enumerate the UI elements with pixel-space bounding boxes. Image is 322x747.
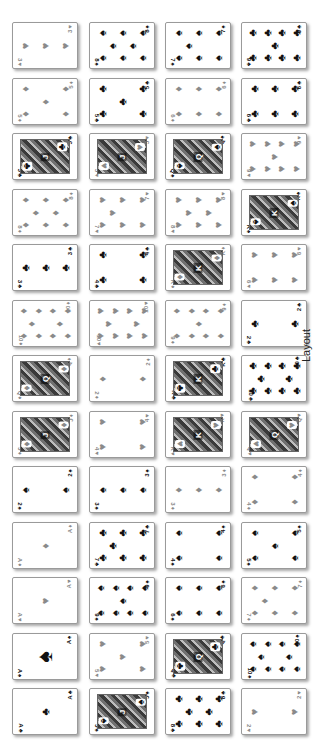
- card-q-of-clubs[interactable]: Q♣Q♣♣♣Q: [165, 633, 231, 680]
- spade-icon: ♠: [246, 230, 252, 233]
- club-icon: ♣: [248, 108, 259, 119]
- card-6-of-spades[interactable]: 6♠6♠♠♠♠♠♠♠: [165, 577, 231, 624]
- club-icon: ♣: [137, 528, 148, 539]
- card-5-of-hearts[interactable]: 5♥5♥♥♥♥♥♥: [89, 633, 155, 680]
- card-9-of-clubs[interactable]: 9♣9♣♣♣♣♣♣♣♣♣♣: [241, 22, 307, 69]
- spade-icon: ♠: [135, 698, 145, 705]
- heart-icon: ♥: [137, 417, 148, 428]
- card-a-of-clubs[interactable]: A♣A♣♣: [12, 688, 78, 735]
- card-a-of-hearts[interactable]: A♥A♥♥: [12, 577, 78, 624]
- card-q-of-diamonds[interactable]: Q♦Q♦♦♦Q: [12, 355, 78, 402]
- spade-icon: ♠: [109, 607, 120, 618]
- card-4-of-spades[interactable]: 4♠4♠♠♠♠♠: [165, 522, 231, 569]
- card-5-of-clubs[interactable]: 5♣5♣♣♣♣♣♣: [89, 78, 155, 125]
- club-icon: ♣: [248, 84, 259, 95]
- card-3-of-diamonds[interactable]: 3♦3♦♦♦♦: [165, 466, 231, 513]
- card-7-of-diamonds[interactable]: 7♦7♦♦♦♦♦♦♦♦: [241, 577, 307, 624]
- heart-icon: ♥: [96, 441, 107, 452]
- diamond-icon: ♦: [170, 285, 176, 288]
- card-10-of-clubs[interactable]: 10♣10♣♣♣♣♣♣♣♣♣♣♣: [241, 355, 307, 402]
- card-4-of-clubs[interactable]: 4♣4♣♣♣♣♣: [89, 244, 155, 291]
- club-icon: ♣: [172, 718, 183, 729]
- card-a-of-spades[interactable]: A♠A♠♠: [12, 633, 78, 680]
- card-9-of-diamonds[interactable]: 9♦9♦♦♦♦♦♦♦♦♦♦: [165, 300, 231, 347]
- card-3-of-hearts[interactable]: 3♥3♥♥♥♥: [12, 22, 78, 69]
- card-pips: ♦♦♦♦♦♦♦♦♦♦: [21, 308, 69, 339]
- court-card-artwork: ♣♣Q: [173, 639, 223, 674]
- diamond-icon: ♦: [47, 306, 58, 317]
- court-rank-label: J: [118, 152, 127, 160]
- spade-icon: ♠: [137, 28, 148, 39]
- card-j-of-hearts[interactable]: J♥J♥♥♥J: [89, 133, 155, 180]
- card-9-of-hearts[interactable]: 9♥9♥♥♥♥♥♥♥♥♥♥: [241, 133, 307, 180]
- heart-icon: ♥: [138, 306, 149, 317]
- card-2-of-hearts[interactable]: 2♥2♥♥♥: [241, 688, 307, 735]
- club-icon: ♣: [261, 385, 272, 396]
- heart-icon: ♥: [117, 195, 128, 206]
- court-rank-label: J: [41, 430, 50, 438]
- card-10-of-spades[interactable]: 10♠10♠♠♠♠♠♠♠♠♠♠♠: [241, 633, 307, 680]
- card-j-of-clubs[interactable]: J♣J♣♣♣J: [12, 133, 78, 180]
- club-icon: ♣: [137, 84, 148, 95]
- card-3-of-spades[interactable]: 3♠3♠♠♠♠: [89, 466, 155, 513]
- card-2-of-clubs[interactable]: 2♣2♣♣♣: [241, 300, 307, 347]
- club-icon: ♣: [276, 28, 287, 39]
- card-a-of-diamonds[interactable]: A♦A♦♦: [12, 522, 78, 569]
- spade-icon: ♠: [172, 528, 183, 539]
- heart-icon: ♥: [95, 306, 106, 317]
- card-6-of-hearts[interactable]: 6♥6♥♥♥♥♥♥♥: [241, 244, 307, 291]
- card-8-of-hearts[interactable]: 8♥8♥♥♥♥♥♥♥♥♥: [165, 189, 231, 236]
- heart-icon: ♥: [182, 207, 193, 218]
- card-j-of-diamonds[interactable]: J♦J♦♦♦J: [12, 411, 78, 458]
- card-3-of-clubs[interactable]: 3♣3♣♣♣♣: [12, 244, 78, 291]
- heart-icon: ♥: [213, 195, 224, 206]
- heart-icon: ♥: [95, 330, 106, 341]
- card-2-of-spades[interactable]: 2♠2♠♠♠: [12, 466, 78, 513]
- card-8-of-clubs[interactable]: 8♣8♣♣♣♣♣♣♣♣♣: [165, 688, 231, 735]
- card-10-of-diamonds[interactable]: 10♦10♦♦♦♦♦♦♦♦♦♦♦: [12, 300, 78, 347]
- spade-icon: ♠: [60, 484, 71, 495]
- card-pips: ♠♠♠: [98, 474, 146, 505]
- heart-icon: ♥: [135, 143, 145, 151]
- court-rank-label: J: [118, 707, 127, 715]
- card-7-of-spades[interactable]: 7♠7♠♠♠♠♠♠♠♠: [165, 22, 231, 69]
- club-icon: ♣: [96, 274, 107, 285]
- card-k-of-diamonds[interactable]: K♦K♦♦♦K: [165, 244, 231, 291]
- card-q-of-hearts[interactable]: Q♥Q♥♥♥Q: [241, 411, 307, 458]
- spade-icon: ♠: [248, 552, 259, 563]
- card-q-of-spades[interactable]: Q♠Q♠♠♠Q: [165, 133, 231, 180]
- card-8-of-spades[interactable]: 8♠8♠♠♠♠♠♠♠♠♠: [89, 22, 155, 69]
- heart-icon: ♥: [109, 306, 120, 317]
- diamond-icon: ♦: [269, 607, 280, 618]
- card-k-of-clubs[interactable]: K♣K♣♣♣K: [165, 355, 231, 402]
- card-pips: ♣♣♣♣♣♣♣♣♣: [250, 30, 298, 61]
- card-k-of-spades[interactable]: K♠K♠♠♠K: [241, 189, 307, 236]
- diamond-icon: ♦: [40, 540, 51, 551]
- card-k-of-hearts[interactable]: K♥K♥♥♥K: [165, 411, 231, 458]
- heart-icon: ♥: [137, 219, 148, 230]
- card-pips: ♦♦♦♦♦: [21, 86, 69, 117]
- card-10-of-hearts[interactable]: 10♥10♥♥♥♥♥♥♥♥♥♥♥: [89, 300, 155, 347]
- card-4-of-hearts[interactable]: 4♥4♥♥♥♥♥: [89, 411, 155, 458]
- card-pips: ♠♠♠♠: [174, 530, 222, 561]
- club-icon: ♣: [290, 52, 301, 63]
- card-4-of-diamonds[interactable]: 4♦4♦♦♦♦♦: [241, 466, 307, 513]
- card-6-of-clubs[interactable]: 6♣6♣♣♣♣♣♣♣: [241, 78, 307, 125]
- card-5-of-spades[interactable]: 5♠5♠♠♠♠♠♠: [241, 522, 307, 569]
- heart-icon: ♥: [137, 441, 148, 452]
- club-icon: ♣: [276, 361, 287, 372]
- card-8-of-diamonds[interactable]: 8♦8♦♦♦♦♦♦♦♦♦: [12, 189, 78, 236]
- card-5-of-diamonds[interactable]: 5♦5♦♦♦♦♦♦: [12, 78, 78, 125]
- spade-icon: ♠: [254, 651, 265, 662]
- card-9-of-spades[interactable]: 9♠9♠♠♠♠♠♠♠♠♠♠: [89, 577, 155, 624]
- card-7-of-hearts[interactable]: 7♥7♥♥♥♥♥♥♥♥: [89, 189, 155, 236]
- card-7-of-clubs[interactable]: 7♣7♣♣♣♣♣♣♣♣: [89, 522, 155, 569]
- court-card-artwork: ♣♣J: [20, 139, 70, 174]
- card-2-of-diamonds[interactable]: 2♦2♦♦♦: [89, 355, 155, 402]
- card-6-of-diamonds[interactable]: 6♦6♦♦♦♦♦♦♦: [165, 78, 231, 125]
- diamond-icon: ♦: [185, 330, 196, 341]
- card-j-of-spades[interactable]: J♠J♠♠♠J: [89, 688, 155, 735]
- heart-icon: ♥: [19, 40, 30, 51]
- spade-icon: ♠: [193, 583, 204, 594]
- club-icon: ♣: [117, 528, 128, 539]
